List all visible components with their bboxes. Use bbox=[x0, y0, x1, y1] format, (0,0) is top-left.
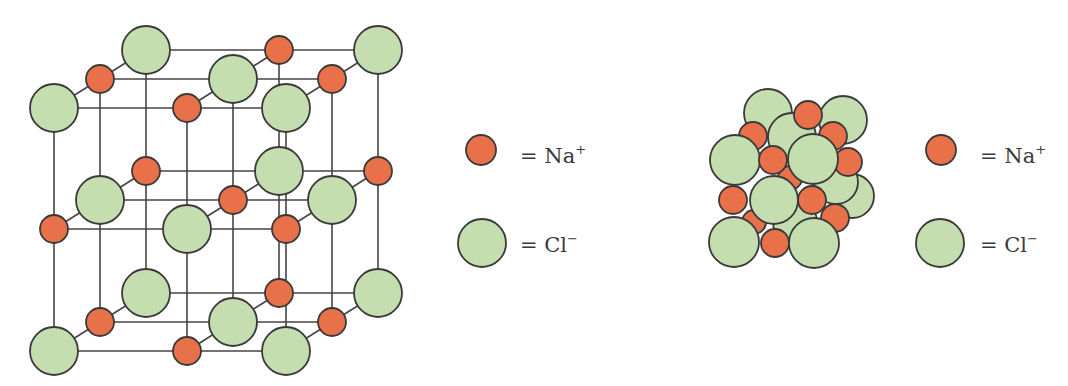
chloride-ion bbox=[788, 134, 838, 184]
chloride-ion bbox=[209, 55, 257, 103]
sodium-ion bbox=[318, 65, 346, 93]
chloride-swatch-icon bbox=[458, 219, 506, 267]
chloride-ion bbox=[709, 217, 759, 267]
sodium-ion bbox=[272, 215, 300, 243]
sodium-ion bbox=[265, 36, 293, 64]
chloride-ion bbox=[789, 218, 839, 268]
chloride-ion bbox=[262, 84, 310, 132]
chloride-ion bbox=[255, 147, 303, 195]
legend-item-na: = Na+ bbox=[466, 135, 586, 168]
legend-label: = Cl− bbox=[520, 231, 578, 257]
chloride-swatch-icon bbox=[916, 219, 964, 267]
legend-label: = Cl− bbox=[980, 231, 1038, 257]
legend-label: = Na+ bbox=[520, 142, 586, 168]
sodium-ion bbox=[761, 229, 789, 257]
sodium-ion bbox=[798, 186, 826, 214]
chloride-ion bbox=[308, 176, 356, 224]
chloride-ion bbox=[710, 135, 760, 185]
chloride-ion bbox=[262, 327, 310, 375]
nacl-figure: = Na+= Cl− = Na+= Cl− bbox=[0, 0, 1068, 386]
chloride-ion bbox=[30, 327, 78, 375]
chloride-ion bbox=[30, 84, 78, 132]
sodium-ion bbox=[364, 157, 392, 185]
chloride-ion bbox=[163, 205, 211, 253]
legend-label: = Na+ bbox=[980, 142, 1046, 168]
legend-item-cl: = Cl− bbox=[916, 219, 1038, 267]
sodium-ion bbox=[86, 65, 114, 93]
chloride-ion bbox=[122, 269, 170, 317]
chloride-ion bbox=[209, 298, 257, 346]
legend-right: = Na+= Cl− bbox=[916, 135, 1046, 267]
sodium-ion bbox=[86, 308, 114, 336]
sodium-ion bbox=[173, 94, 201, 122]
sodium-ion bbox=[794, 101, 822, 129]
chloride-ion bbox=[354, 269, 402, 317]
legend-item-na: = Na+ bbox=[926, 135, 1046, 168]
sodium-ion bbox=[173, 337, 201, 365]
chloride-ion bbox=[354, 26, 402, 74]
lattice-model bbox=[30, 26, 402, 375]
packing-model bbox=[709, 89, 874, 268]
sodium-ion bbox=[40, 215, 68, 243]
sodium-ion bbox=[132, 157, 160, 185]
figure-canvas: = Na+= Cl− = Na+= Cl− bbox=[0, 0, 1068, 386]
chloride-ion bbox=[76, 176, 124, 224]
sodium-ion bbox=[219, 186, 247, 214]
sodium-swatch-icon bbox=[466, 135, 496, 165]
chloride-ion bbox=[750, 176, 798, 224]
sodium-ion bbox=[318, 308, 346, 336]
sodium-ion bbox=[719, 186, 747, 214]
sodium-swatch-icon bbox=[926, 135, 956, 165]
legend-item-cl: = Cl− bbox=[458, 219, 578, 267]
sodium-ion bbox=[265, 279, 293, 307]
chloride-ion bbox=[122, 26, 170, 74]
legend-left: = Na+= Cl− bbox=[458, 135, 586, 267]
sodium-ion bbox=[759, 146, 787, 174]
